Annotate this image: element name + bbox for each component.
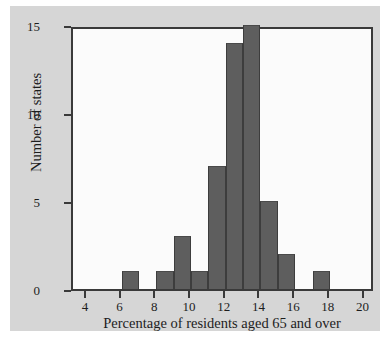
x-tick-mark <box>257 291 259 298</box>
x-tick-mark <box>119 291 121 298</box>
x-tick-mark <box>292 291 294 298</box>
x-tick-label: 14 <box>243 300 273 313</box>
y-tick-label: 0 <box>0 284 40 297</box>
y-tick-mark <box>64 114 71 116</box>
y-tick-mark <box>64 290 71 292</box>
histogram-bar <box>260 201 277 289</box>
histogram-bar <box>243 25 260 289</box>
x-tick-label: 10 <box>174 300 204 313</box>
figure-card: 051015 468101214161820 Number of states … <box>10 6 380 331</box>
histogram-bar <box>313 271 330 289</box>
histogram-bar <box>278 254 295 289</box>
histogram-bar <box>208 166 225 289</box>
histogram-bar <box>174 236 191 289</box>
x-tick-mark <box>153 291 155 298</box>
x-tick-mark <box>362 291 364 298</box>
x-tick-mark <box>223 291 225 298</box>
y-tick-label: 15 <box>0 20 40 33</box>
x-tick-label: 16 <box>278 300 308 313</box>
histogram-bar <box>122 271 139 289</box>
x-tick-label: 4 <box>70 300 100 313</box>
histogram-bar <box>226 43 243 289</box>
y-tick-mark <box>64 26 71 28</box>
y-axis-title: Number of states <box>28 33 45 213</box>
y-tick-mark <box>64 202 71 204</box>
histogram-bar <box>156 271 173 289</box>
plot-area <box>73 29 371 289</box>
x-tick-mark <box>327 291 329 298</box>
plot-frame <box>71 27 373 291</box>
x-tick-label: 12 <box>209 300 239 313</box>
x-tick-mark <box>84 291 86 298</box>
x-tick-label: 18 <box>313 300 343 313</box>
x-tick-label: 20 <box>348 300 378 313</box>
x-axis-title: Percentage of residents aged 65 and over <box>71 315 373 332</box>
x-tick-label: 6 <box>105 300 135 313</box>
histogram-bar <box>191 271 208 289</box>
x-tick-label: 8 <box>139 300 169 313</box>
x-tick-mark <box>188 291 190 298</box>
